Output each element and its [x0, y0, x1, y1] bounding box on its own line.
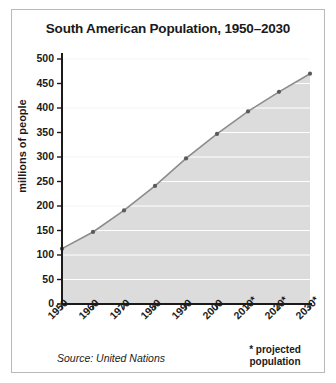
y-axis-tick-label: 350 [20, 126, 54, 138]
y-axis-tick-label: 450 [20, 77, 54, 89]
data-point [246, 109, 250, 113]
y-axis-tick-label: 50 [20, 273, 54, 285]
data-point [277, 90, 281, 94]
y-axis-tick-label: 250 [20, 175, 54, 187]
data-point [153, 184, 157, 188]
projected-note: * projected population [232, 344, 318, 368]
data-point [184, 156, 188, 160]
y-axis-tick-label: 300 [20, 150, 54, 162]
source-note: Source: United Nations [57, 352, 165, 364]
chart-card: South American Population, 1950–2030 mil… [0, 0, 336, 383]
y-axis-tick-label: 500 [20, 52, 54, 64]
data-point [122, 208, 126, 212]
data-point [215, 132, 219, 136]
y-axis-tick-label: 400 [20, 101, 54, 113]
y-axis-tick-label: 150 [20, 224, 54, 236]
data-point [91, 230, 95, 234]
y-axis-tick-label: 100 [20, 248, 54, 260]
data-point [308, 72, 312, 76]
y-axis-tick-label: 200 [20, 199, 54, 211]
